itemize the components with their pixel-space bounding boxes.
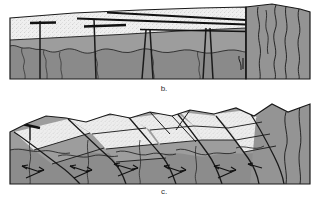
panel-c-caption: c. bbox=[144, 187, 184, 196]
panel-c-block bbox=[10, 104, 310, 184]
panel-c-cross-section bbox=[0, 0, 320, 206]
figure-root: b. bbox=[0, 0, 320, 206]
